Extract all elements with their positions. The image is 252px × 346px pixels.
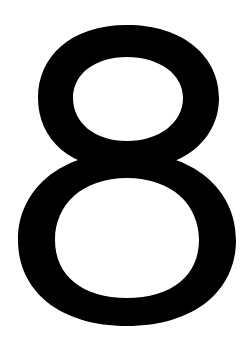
digit-eight-svg: 8 [0, 0, 252, 346]
digit-eight-graphic: 8 [0, 0, 252, 346]
upper-loop [38, 25, 219, 170]
lower-loop [18, 152, 236, 326]
